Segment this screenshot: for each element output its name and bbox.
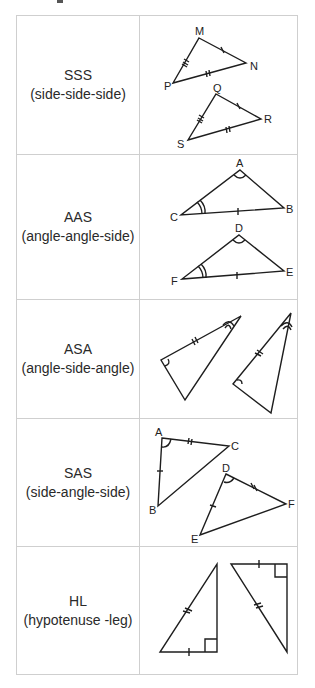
postulate-cell: ASA (angle-side-angle) — [17, 300, 140, 419]
figure-cell — [140, 547, 298, 675]
vertex-label: B — [149, 504, 156, 516]
postulate-abbr: ASA — [17, 340, 139, 359]
vertex-label: C — [170, 211, 178, 223]
figure-cell — [140, 300, 298, 419]
postulate-abbr: AAS — [17, 208, 139, 227]
row-aas: AAS (angle-angle-side) A B C D — [17, 155, 298, 300]
postulate-abbr: SSS — [17, 66, 139, 85]
row-asa: ASA (angle-side-angle) — [17, 300, 298, 419]
vertex-label: A — [236, 157, 244, 169]
vertex-label: D — [222, 462, 230, 474]
vertex-label: M — [195, 25, 204, 37]
figure-cell: M N P Q R S — [140, 16, 298, 155]
sss-triangles-figure: M N P Q R S — [140, 16, 297, 154]
vertex-label: B — [286, 203, 293, 215]
postulate-full: (side-side-side) — [17, 85, 139, 104]
vertex-label: N — [250, 60, 258, 72]
postulate-full: (angle-side-angle) — [17, 359, 139, 378]
vertex-label: A — [155, 426, 163, 438]
vertex-label: F — [171, 275, 178, 287]
postulate-cell: SSS (side-side-side) — [17, 16, 140, 155]
postulate-full: (angle-angle-side) — [17, 227, 139, 246]
row-sas: SAS (side-angle-side) A C B D F — [17, 419, 298, 547]
postulate-full: (hypotenuse -leg) — [17, 611, 139, 630]
asa-triangles-figure — [140, 300, 297, 418]
figure-cell: A C B D F E — [140, 419, 298, 547]
vertex-label: S — [177, 138, 184, 150]
vertex-label: C — [231, 440, 239, 452]
sas-triangles-figure: A C B D F E — [140, 419, 297, 546]
postulate-abbr: HL — [17, 592, 139, 611]
vertex-label: P — [164, 80, 171, 92]
figure-cell: A B C D E F — [140, 155, 298, 300]
vertex-label: E — [286, 266, 293, 278]
hl-triangles-figure — [140, 547, 297, 674]
postulate-full: (side-angle-side) — [17, 483, 139, 502]
vertex-label: Q — [213, 82, 222, 94]
vertex-label: F — [288, 498, 295, 510]
vertex-label: R — [264, 113, 272, 125]
vertex-label: E — [191, 533, 198, 545]
row-hl: HL (hypotenuse -leg) — [17, 547, 298, 675]
postulate-abbr: SAS — [17, 464, 139, 483]
postulate-cell: HL (hypotenuse -leg) — [17, 547, 140, 675]
cropped-text-fragment — [57, 0, 63, 3]
congruence-table: SSS (side-side-side) M N P Q — [16, 15, 298, 675]
postulate-cell: SAS (side-angle-side) — [17, 419, 140, 547]
vertex-label: D — [235, 222, 243, 234]
postulate-cell: AAS (angle-angle-side) — [17, 155, 140, 300]
aas-triangles-figure: A B C D E F — [140, 155, 297, 299]
row-sss: SSS (side-side-side) M N P Q — [17, 16, 298, 155]
